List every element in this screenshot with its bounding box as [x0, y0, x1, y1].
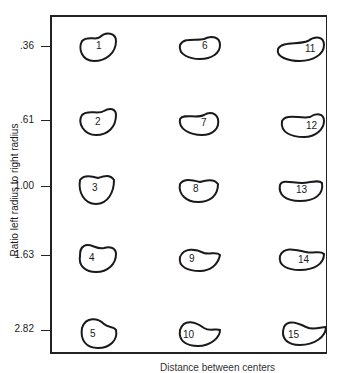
shape-number: 12 [306, 120, 317, 131]
bean-shape-7: 7 [176, 109, 222, 137]
bean-shape-5: 5 [78, 316, 120, 350]
shape-number: 11 [305, 43, 315, 54]
bean-shape-10: 10 [176, 318, 222, 348]
y-tick-mark [41, 186, 50, 187]
y-tick-mark [41, 120, 50, 121]
bean-shape-8: 8 [176, 176, 222, 204]
shape-number: 6 [202, 40, 208, 51]
y-tick-mark [41, 330, 50, 331]
shape-number: 7 [201, 117, 207, 128]
y-tick-label: 2.82 [0, 323, 34, 334]
x-axis-label: Distance between centers [160, 362, 275, 373]
y-axis-label: Ratio left radius to right radius [9, 124, 20, 257]
shape-number: 8 [193, 183, 199, 194]
bean-shape-13: 13 [276, 177, 326, 203]
shape-number: 2 [95, 116, 101, 127]
bean-shape-12: 12 [278, 111, 326, 139]
shape-number: 5 [90, 328, 96, 339]
bean-shape-6: 6 [176, 33, 222, 61]
bean-shape-9: 9 [176, 245, 222, 273]
shape-number: 10 [183, 329, 194, 340]
bean-shape-3: 3 [76, 172, 118, 206]
y-tick-mark [41, 255, 50, 256]
shape-number: 15 [288, 329, 299, 340]
shape-number: 13 [296, 184, 307, 195]
bean-shape-1: 1 [76, 31, 118, 63]
shape-number: 14 [298, 254, 309, 265]
y-tick-mark [41, 46, 50, 47]
bean-shape-15: 15 [280, 319, 328, 347]
bean-shape-14: 14 [276, 246, 326, 272]
shape-number: 9 [189, 253, 195, 264]
shape-number: 1 [96, 40, 102, 51]
shape-number: 4 [89, 252, 95, 263]
shape-number: 3 [92, 182, 98, 193]
bean-shape-11: 11 [274, 35, 326, 63]
y-tick-label: .36 [0, 40, 34, 51]
bean-shape-2: 2 [76, 107, 118, 137]
bean-shape-4: 4 [76, 242, 118, 274]
